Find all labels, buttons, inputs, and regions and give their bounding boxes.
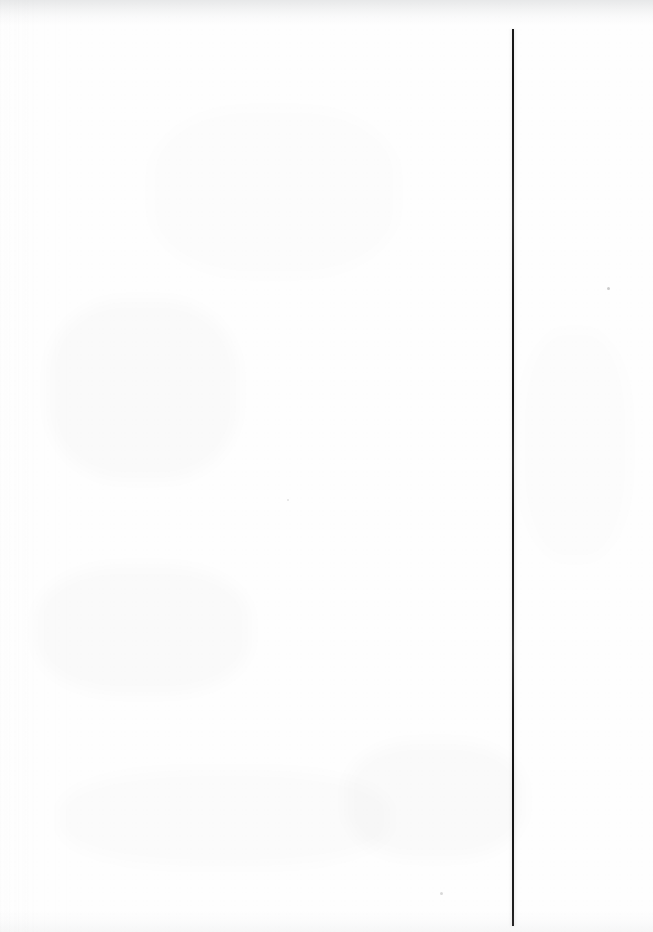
paper-background [0, 0, 653, 932]
scanned-page [0, 0, 653, 932]
vertical-rule [512, 29, 514, 926]
